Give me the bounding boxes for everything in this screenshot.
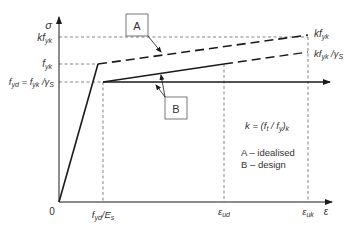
curve-B-design-inclined (103, 64, 224, 82)
callout-A-label: A (133, 20, 141, 32)
curves (59, 35, 330, 202)
callout-A: A (126, 14, 161, 52)
stress-strain-diagram: A B σ kfyk fyk fyd = fyk /γS 0 fyd/Es εu… (0, 0, 354, 227)
right-label-kfyk: kfyk (314, 28, 329, 41)
elastic-branch (59, 64, 98, 202)
x-tick-fyd-Es: fyd/Es (92, 209, 115, 222)
y-tick-kfyk: kfyk (37, 32, 52, 45)
x-tick-eps-ud: εud (218, 206, 231, 218)
y-tick-fyk: fyk (42, 58, 52, 71)
curve-B-design-inclined-extension (224, 52, 308, 64)
k-formula: k = (ft / fy)k (245, 120, 290, 133)
callout-B-label: B (172, 103, 179, 115)
origin-label: 0 (49, 206, 55, 217)
x-axis-label-epsilon: ε (324, 206, 329, 217)
callout-A-leader (148, 36, 161, 52)
axes (59, 17, 332, 202)
x-tick-eps-uk: εuk (302, 206, 314, 218)
legend: A – idealised B – design (241, 147, 295, 170)
right-label-kfyk-gamma-s: kfyk /γS (314, 48, 343, 61)
y-axis-label-sigma: σ (45, 19, 52, 31)
legend-item-A: A – idealised (241, 147, 295, 158)
y-tick-fyd: fyd = fyk /γS (9, 76, 55, 89)
curve-A-idealised-hardening (98, 35, 308, 64)
legend-item-B: B – design (241, 159, 286, 170)
